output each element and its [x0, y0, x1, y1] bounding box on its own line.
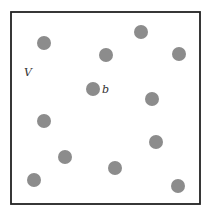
- point: [99, 48, 113, 62]
- point: [171, 179, 185, 193]
- point: [134, 25, 148, 39]
- points-group: [27, 25, 186, 193]
- point: [145, 92, 159, 106]
- point: [172, 47, 186, 61]
- point: [37, 36, 51, 50]
- point: [37, 114, 51, 128]
- point: [149, 135, 163, 149]
- point-label-b: b: [102, 83, 109, 96]
- point: [108, 161, 122, 175]
- set-label-v: V: [24, 66, 33, 79]
- point: [58, 150, 72, 164]
- point-b: [86, 82, 100, 96]
- point: [27, 173, 41, 187]
- point-set-diagram: V b: [0, 0, 212, 212]
